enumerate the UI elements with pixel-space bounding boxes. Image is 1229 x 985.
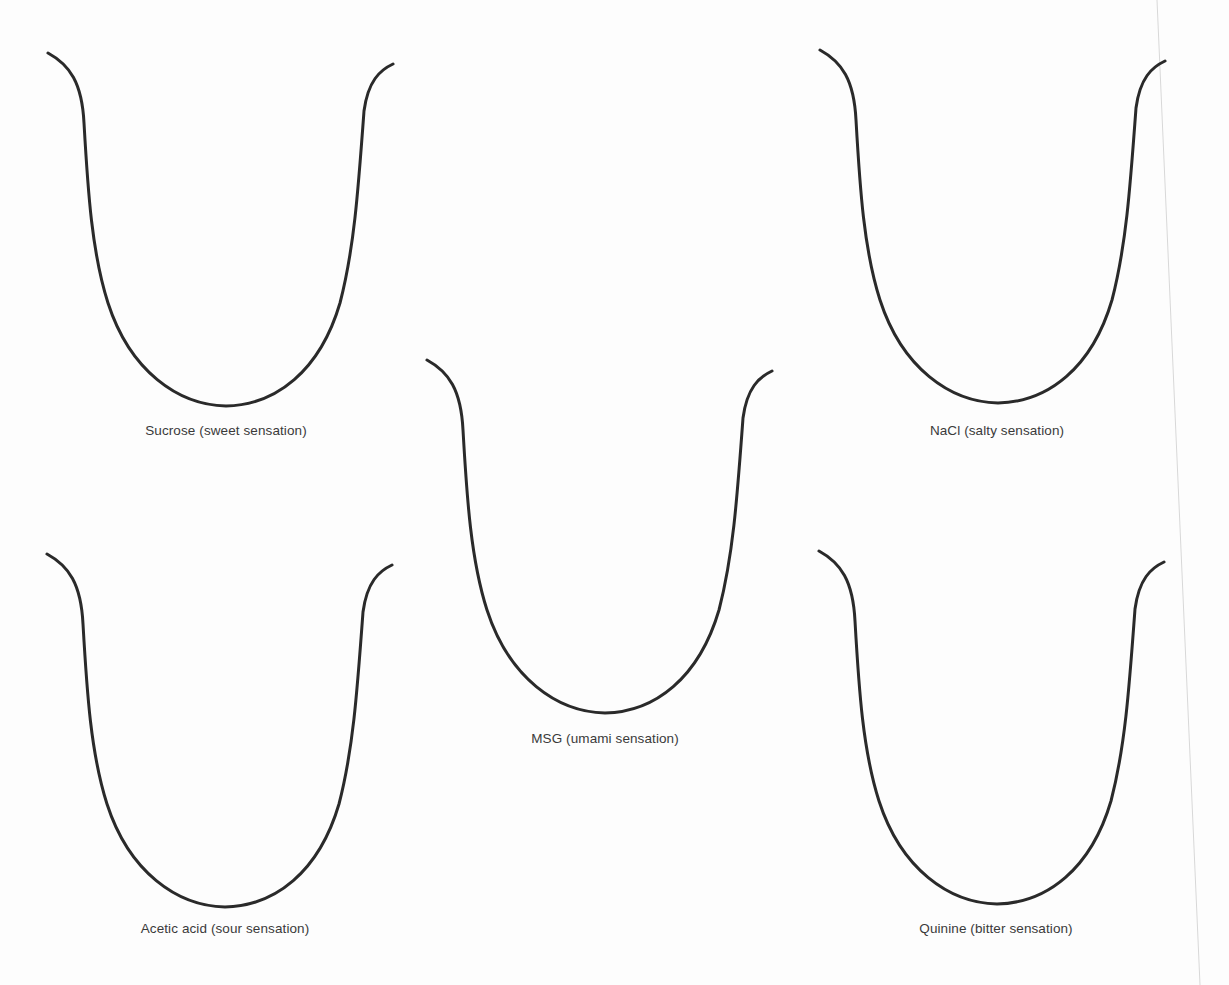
tongue-outline-sucrose [48, 53, 393, 406]
tongue-diagram-canvas: Sucrose (sweet sensation) NaCl (salty se… [0, 0, 1229, 985]
caption-nacl: NaCl (salty sensation) [930, 423, 1064, 438]
tongue-outline-msg [427, 360, 772, 713]
caption-quinine: Quinine (bitter sensation) [919, 921, 1072, 936]
page-edge-line [1157, 0, 1200, 985]
tongue-outline-quinine [819, 551, 1164, 904]
tongue-outline-acetic-acid [47, 554, 392, 907]
caption-sucrose: Sucrose (sweet sensation) [145, 423, 307, 438]
tongue-outlines [0, 0, 1229, 985]
caption-msg: MSG (umami sensation) [531, 731, 679, 746]
tongue-outline-nacl [820, 50, 1165, 403]
caption-acetic-acid: Acetic acid (sour sensation) [141, 921, 310, 936]
